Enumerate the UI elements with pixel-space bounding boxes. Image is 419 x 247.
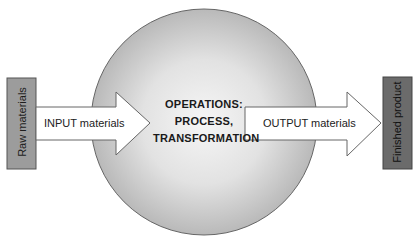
raw-materials-label: Raw materials (16, 76, 28, 168)
operations-line-3: TRANSFORMATION (153, 130, 255, 147)
operations-line-2: PROCESS, (153, 113, 255, 130)
finished-product-label: Finished product (391, 76, 403, 168)
operations-text: OPERATIONS: PROCESS, TRANSFORMATION (153, 96, 255, 147)
operations-line-1: OPERATIONS: (153, 96, 255, 113)
input-arrow-label: INPUT materials (44, 117, 124, 129)
output-arrow-label: OUTPUT materials (263, 117, 356, 129)
